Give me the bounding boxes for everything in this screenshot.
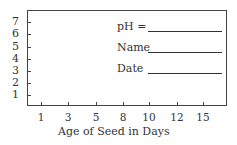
y-tick-label: 7 — [7, 16, 19, 27]
y-tick-label: 3 — [7, 65, 19, 76]
x-tick — [41, 102, 42, 106]
y-tick — [27, 22, 31, 23]
x-tick — [177, 102, 178, 106]
date-label: Date — [117, 63, 143, 75]
y-tick — [27, 47, 31, 48]
ph-blank — [148, 31, 222, 32]
y-tick — [27, 34, 31, 35]
y-tick — [27, 83, 31, 84]
name-label: Name — [117, 42, 150, 54]
x-tick-label: 5 — [86, 112, 106, 123]
x-tick-label: 8 — [113, 112, 133, 123]
x-tick-label: 15 — [193, 112, 213, 123]
y-tick-label: 2 — [7, 77, 19, 88]
date-blank — [148, 73, 222, 74]
x-tick-label: 10 — [139, 112, 159, 123]
y-tick — [27, 71, 31, 72]
y-tick-label: 4 — [7, 53, 19, 64]
x-tick — [203, 102, 204, 106]
x-tick — [149, 102, 150, 106]
x-axis-title: Age of Seed in Days — [58, 126, 170, 138]
y-tick — [27, 95, 31, 96]
y-tick — [27, 59, 31, 60]
x-tick-label: 3 — [58, 112, 78, 123]
x-tick — [68, 102, 69, 106]
x-tick-label: 12 — [167, 112, 187, 123]
x-tick-label: 1 — [31, 112, 51, 123]
y-tick-label: 1 — [7, 89, 19, 100]
x-tick — [96, 102, 97, 106]
y-tick-label: 6 — [7, 28, 19, 39]
name-blank — [148, 52, 222, 53]
x-tick — [123, 102, 124, 106]
ph-label: pH = — [117, 21, 146, 33]
y-tick-label: 5 — [7, 41, 19, 52]
